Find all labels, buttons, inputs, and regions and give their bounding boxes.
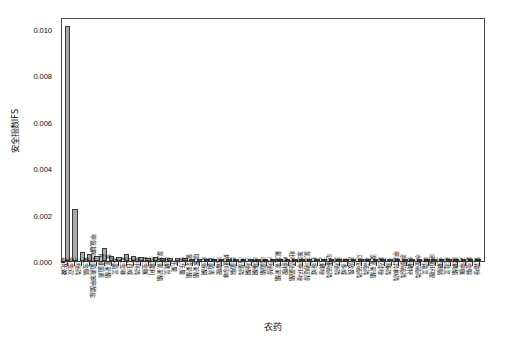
x-tick <box>347 262 348 266</box>
bar-series <box>62 19 484 261</box>
x-tick-label: 炔螨特 <box>407 257 413 274</box>
x-tick <box>295 262 296 266</box>
bar-slot <box>379 19 386 261</box>
x-tick <box>148 262 149 266</box>
y-tick-label: 0.004 <box>33 165 52 174</box>
y-axis-title: 安全指数IFS <box>8 109 20 153</box>
x-tick <box>214 262 215 266</box>
x-tick-label: 敌敌畏 <box>348 257 354 274</box>
x-tick <box>398 262 399 266</box>
x-tick-label: 丙溴磷 <box>237 257 243 274</box>
x-tick <box>325 262 326 266</box>
x-tick-label: 啶虫脒 <box>141 257 147 274</box>
x-tick-label: 氟虫腈 <box>82 257 88 274</box>
x-tick-label: 杀螟硫磷 <box>400 254 406 277</box>
x-tick <box>118 262 119 266</box>
bar-slot <box>189 19 196 261</box>
x-tick-label: 百菌清 <box>208 257 214 274</box>
x-tick-label: 异菌脲 <box>230 257 236 274</box>
x-tick <box>199 262 200 266</box>
x-tick-label: 氯唑磷 <box>333 257 339 274</box>
x-tick-label: 嘧菌环胺 <box>429 254 435 277</box>
x-tick <box>229 262 230 266</box>
bar-slot <box>145 19 152 261</box>
bar-slot <box>64 19 71 261</box>
x-tick-label: 多菌灵 <box>112 257 118 274</box>
x-tick <box>96 262 97 266</box>
x-tick <box>465 262 466 266</box>
bar-slot <box>445 19 452 261</box>
x-tick-label: 二嗪磷 <box>385 257 391 274</box>
bar-slot <box>452 19 459 261</box>
y-tick-label: 0.000 <box>33 258 52 267</box>
x-tick <box>177 262 178 266</box>
x-tick <box>67 262 68 266</box>
x-tick <box>140 262 141 266</box>
x-tick-label: 阿维菌素 <box>97 254 103 277</box>
x-tick <box>354 262 355 266</box>
x-tick-label: 毒死蜱 <box>60 257 66 274</box>
bar-slot <box>93 19 100 261</box>
bar-slot <box>357 19 364 261</box>
bar-slot <box>438 19 445 261</box>
x-tick <box>126 262 127 266</box>
x-tick-label: 苯醚甲环唑 <box>296 251 302 280</box>
x-tick-label: 氯氰菊酯 <box>105 254 111 277</box>
x-tick-label: 氟氯氰菊酯 <box>274 251 280 280</box>
bar-slot <box>233 19 240 261</box>
bar-slot <box>86 19 93 261</box>
y-axis: 安全指数IFS 0.0000.0020.0040.0060.0080.010 <box>0 0 61 343</box>
x-tick <box>332 262 333 266</box>
x-tick <box>406 262 407 266</box>
bar-slot <box>159 19 166 261</box>
bar-slot <box>416 19 423 261</box>
x-tick-label: 氰霜唑 <box>473 257 479 274</box>
x-tick <box>192 262 193 266</box>
plot-area <box>61 18 485 262</box>
x-tick-label: 氧乐果 <box>178 257 184 274</box>
x-tick <box>111 262 112 266</box>
x-tick <box>258 262 259 266</box>
bar-slot <box>306 19 313 261</box>
x-tick-label: 嘧菌酯 <box>259 257 265 274</box>
x-tick <box>391 262 392 266</box>
x-tick-label: 甲拌磷 <box>134 257 140 274</box>
x-tick-label: 甲霜灵 <box>422 257 428 274</box>
x-tick-label: 嘧霉胺 <box>215 257 221 274</box>
x-tick-label: 克百威 <box>127 257 133 274</box>
y-tick-label: 0.010 <box>33 25 52 34</box>
x-tick-label: 杀虫双 <box>68 257 74 274</box>
x-tick <box>155 262 156 266</box>
x-tick <box>266 262 267 266</box>
x-tick <box>221 262 222 266</box>
x-tick <box>339 262 340 266</box>
x-tick-label: 虫螨腈 <box>436 257 442 274</box>
x-tick-label: 甲氨基阿维菌素苯甲酸盐 <box>90 234 96 298</box>
x-tick-label: 三唑酮 <box>245 257 251 274</box>
x-tick <box>280 262 281 266</box>
x-tick-label: 吡蚜酮 <box>200 257 206 274</box>
x-tick-label: 灭多威 <box>341 257 347 274</box>
x-tick <box>185 262 186 266</box>
x-tick <box>104 262 105 266</box>
bar-slot <box>299 19 306 261</box>
bar-slot <box>167 19 174 261</box>
x-tick-label: 哒螨灵 <box>164 257 170 274</box>
x-tick <box>310 262 311 266</box>
bar-slot <box>225 19 232 261</box>
x-tick-label: 螺螨酯 <box>451 257 457 274</box>
bar-slot <box>401 19 408 261</box>
x-tick <box>273 262 274 266</box>
bar-slot <box>372 19 379 261</box>
x-tick <box>442 262 443 266</box>
bar-slot <box>137 19 144 261</box>
bar-slot <box>313 19 320 261</box>
x-axis-tick-labels: 毒死蜱杀虫双三唑磷氟虫腈甲氨基阿维菌素苯甲酸盐阿维菌素氯氰菊酯多菌灵吡虫啉克百威… <box>61 266 485 318</box>
bar-slot <box>262 19 269 261</box>
x-tick-label: 噻嗪酮 <box>252 257 258 274</box>
bar-slot <box>277 19 284 261</box>
bar-slot <box>115 19 122 261</box>
bar-slot <box>196 19 203 261</box>
x-tick-label: 氯氟氰菊酯 <box>156 251 162 280</box>
x-tick-label: 氟硅唑 <box>377 257 383 274</box>
